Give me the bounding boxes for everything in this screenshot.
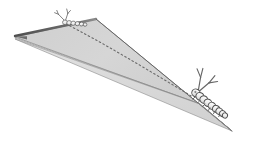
figure-root: Caterpillar on an inclined planar surfac… (0, 0, 257, 153)
illustration-canvas (0, 0, 257, 153)
antenna-pair-icon (54, 9, 71, 23)
